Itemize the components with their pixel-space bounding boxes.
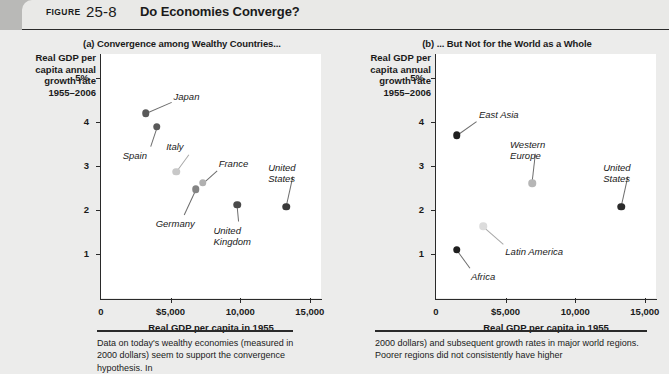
data-point-label: Germany: [156, 218, 195, 229]
data-point-label: France: [219, 158, 249, 169]
x-tick-label: 15,000: [615, 306, 669, 317]
data-point-label: United Kingdom: [213, 225, 251, 247]
x-tick-label: 10,000: [545, 306, 605, 317]
y-tick-label: 3: [394, 160, 424, 171]
caption-text-right: 2000 dollars) and subsequent growth rate…: [375, 337, 649, 362]
x-tick-mark: [506, 298, 507, 303]
caption-rule-left: [97, 330, 293, 332]
y-tick-mark: [96, 210, 101, 211]
y-tick-mark: [431, 122, 436, 123]
x-tick-mark: [575, 298, 576, 303]
x-tick-label: 0: [406, 306, 466, 317]
y-tick-label: 4: [59, 116, 89, 127]
data-point: [453, 246, 461, 254]
data-point: [153, 123, 161, 131]
data-point: [282, 203, 290, 211]
data-point-label: Italy: [166, 141, 183, 152]
caption-rule-right: [375, 330, 647, 332]
x-tick-label: $5,000: [141, 306, 201, 317]
x-tick-label: 15,000: [280, 306, 340, 317]
figure-title: Do Economies Converge?: [140, 4, 300, 19]
panel-b-y-axis-line: [435, 54, 436, 300]
figure-number: 25-8: [86, 3, 117, 20]
y-tick-label: 4: [394, 116, 424, 127]
data-point-label: Western Europe: [510, 139, 545, 161]
data-point-label: Africa: [471, 271, 495, 282]
panel-b-x-axis-line: [435, 299, 657, 300]
y-tick-label: 5%: [394, 72, 424, 83]
panel-a-subtitle: (a) Convergence among Wealthy Countries.…: [0, 38, 334, 49]
y-tick-label: 2: [394, 204, 424, 215]
x-tick-mark: [171, 298, 172, 303]
panel-a-y-axis-line: [100, 54, 101, 300]
figure-header-plate: [22, 0, 669, 30]
panel-a-x-axis-line: [100, 299, 322, 300]
data-point-label: Latin America: [505, 246, 563, 257]
panel-b: (b) ... But Not for the World as a Whole…: [335, 30, 669, 330]
data-point-label: United States: [268, 162, 295, 184]
caption-text-left: Data on today's wealthy economies (measu…: [97, 337, 297, 374]
data-point-label: Spain: [123, 150, 147, 161]
data-point: [192, 186, 200, 194]
data-point: [617, 203, 625, 211]
data-point: [142, 110, 150, 118]
y-tick-label: 1: [59, 248, 89, 259]
y-tick-mark: [431, 254, 436, 255]
data-point: [172, 168, 180, 176]
x-tick-label: 0: [71, 306, 131, 317]
caption-area: Data on today's wealthy economies (measu…: [0, 330, 669, 374]
y-tick-label: 5%: [59, 72, 89, 83]
y-tick-mark: [96, 78, 101, 79]
y-tick-mark: [431, 78, 436, 79]
y-tick-mark: [96, 254, 101, 255]
x-tick-mark: [645, 298, 646, 303]
y-tick-mark: [96, 166, 101, 167]
data-point: [528, 180, 536, 188]
y-tick-mark: [431, 166, 436, 167]
data-point: [453, 132, 461, 140]
data-point: [480, 223, 488, 231]
x-tick-mark: [240, 298, 241, 303]
data-point: [199, 179, 207, 187]
y-tick-label: 1: [394, 248, 424, 259]
panel-a: (a) Convergence among Wealthy Countries.…: [0, 30, 334, 330]
data-point-label: Japan: [174, 91, 200, 102]
data-point: [234, 201, 242, 209]
data-point-label: East Asia: [479, 109, 519, 120]
y-tick-label: 3: [59, 160, 89, 171]
y-tick-label: 2: [59, 204, 89, 215]
figure-tag-label: FIGURE: [46, 7, 81, 17]
y-tick-mark: [431, 210, 436, 211]
data-point-label: United States: [603, 162, 630, 184]
panel-b-subtitle: (b) ... But Not for the World as a Whole: [335, 38, 669, 49]
x-tick-label: 10,000: [210, 306, 270, 317]
x-tick-label: $5,000: [476, 306, 536, 317]
y-tick-mark: [96, 122, 101, 123]
x-tick-mark: [310, 298, 311, 303]
